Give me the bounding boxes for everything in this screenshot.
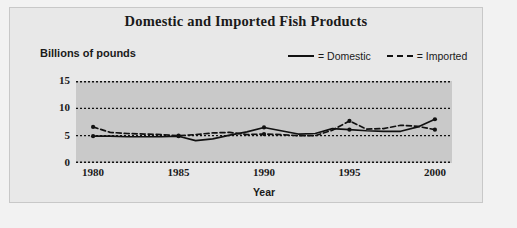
- y-tick-label: 5: [48, 129, 70, 141]
- data-point-marker: [91, 125, 95, 129]
- x-axis-label: Year: [76, 186, 452, 198]
- x-tick-label: 1995: [329, 166, 369, 178]
- gridlines: [76, 82, 452, 162]
- data-point-marker: [262, 125, 266, 129]
- chart-title: Domestic and Imported Fish Products: [9, 13, 483, 30]
- y-tick-label: 15: [48, 74, 70, 86]
- solid-line-icon: [288, 55, 314, 57]
- y-axis-label: Billions of pounds: [40, 47, 136, 59]
- figure-container: Domestic and Imported Fish Products Bill…: [0, 0, 517, 228]
- data-point-marker: [433, 117, 437, 121]
- plot-area: [76, 81, 452, 163]
- y-tick-label: 10: [48, 101, 70, 113]
- series-line-domestic: [93, 119, 435, 140]
- legend-item-domestic: = Domestic: [288, 50, 371, 62]
- legend-label-imported: = Imported: [417, 50, 468, 62]
- plot-svg: [76, 81, 452, 163]
- x-tick-label: 1985: [159, 166, 199, 178]
- legend-label-domestic: = Domestic: [318, 50, 371, 62]
- data-point-marker: [91, 134, 95, 138]
- data-point-marker: [347, 119, 351, 123]
- series-layer: [93, 119, 435, 140]
- data-point-marker: [347, 128, 351, 132]
- x-tick-label: 2000: [415, 166, 455, 178]
- x-tick-label: 1990: [244, 166, 284, 178]
- data-point-marker: [262, 132, 266, 136]
- data-point-marker: [433, 128, 437, 132]
- y-tick-label: 0: [48, 156, 70, 168]
- legend-item-imported: = Imported: [387, 50, 468, 62]
- chart-legend: = Domestic = Imported: [288, 50, 467, 62]
- dashed-line-icon: [387, 55, 413, 57]
- x-tick-label: 1980: [73, 166, 113, 178]
- data-point-marker: [176, 134, 180, 138]
